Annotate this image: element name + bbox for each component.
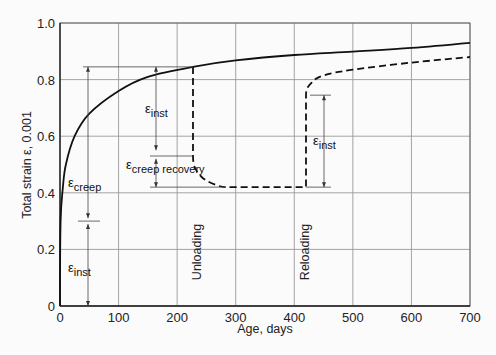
reloading-label: Reloading bbox=[298, 224, 312, 280]
y-tick-label: 0 bbox=[48, 299, 55, 314]
y-tick-label: 0.4 bbox=[37, 186, 55, 201]
plot-frame bbox=[60, 23, 470, 306]
arrowhead-icon bbox=[86, 301, 90, 306]
arrowhead-icon bbox=[322, 95, 326, 100]
y-tick-label: 0.6 bbox=[37, 129, 55, 144]
arrowhead-icon bbox=[86, 224, 90, 229]
eps-inst-loading-label: εinst bbox=[68, 260, 91, 278]
eps-inst-unloading-label: εinst bbox=[145, 101, 168, 119]
x-tick-label: 700 bbox=[459, 310, 481, 325]
data-series bbox=[60, 43, 470, 306]
y-tick-label: 0.2 bbox=[37, 242, 55, 257]
creep-strain-chart: 010020030040050060070000.20.40.60.81.0 A… bbox=[0, 0, 496, 355]
x-tick-label: 600 bbox=[401, 310, 423, 325]
sustained-load-curve bbox=[60, 43, 470, 306]
grid-lines bbox=[60, 23, 470, 306]
y-axis-label: Total strain ε, 0.001 bbox=[20, 111, 34, 219]
arrowhead-icon bbox=[86, 213, 90, 218]
x-tick-label: 200 bbox=[166, 310, 188, 325]
y-tick-label: 0.8 bbox=[37, 73, 55, 88]
axes bbox=[60, 23, 470, 306]
arrowhead-icon bbox=[154, 67, 158, 72]
x-tick-label: 500 bbox=[342, 310, 364, 325]
arrowhead-icon bbox=[154, 182, 158, 187]
x-tick-label: 0 bbox=[56, 310, 63, 325]
arrowhead-icon bbox=[86, 67, 90, 72]
eps-inst-reloading-label: εinst bbox=[313, 133, 336, 151]
arrowhead-icon bbox=[154, 145, 158, 150]
x-axis-label: Age, days bbox=[237, 322, 293, 336]
x-tick-label: 100 bbox=[108, 310, 130, 325]
unload-reload-curve bbox=[193, 57, 470, 187]
y-tick-label: 1.0 bbox=[37, 16, 55, 31]
unloading-label: Unloading bbox=[190, 224, 204, 280]
arrowhead-icon bbox=[322, 182, 326, 187]
annotations bbox=[78, 67, 331, 306]
eps-creep-label: εcreep bbox=[68, 175, 101, 193]
